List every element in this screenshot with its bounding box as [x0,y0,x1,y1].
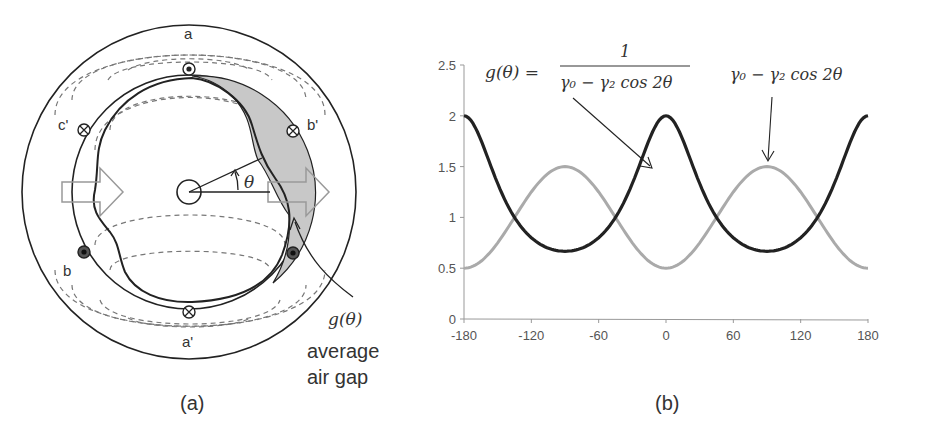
conductor-c-dot [287,247,299,259]
perm-annotation-arrow [768,97,772,160]
conductor-b-prime-cross [287,125,299,137]
y-tick-labels: 00.511.522.5 [438,58,456,327]
label-c-prime: c' [58,116,69,133]
y-tick-label: 2 [449,109,456,124]
y-tick-label: 0.5 [438,261,456,276]
caption-b: (b) [655,392,679,414]
label-a-prime: a' [182,333,193,350]
permeance-series-line [464,167,868,269]
gap-series-line [464,116,868,252]
theta-label: θ [244,172,254,192]
caption-a: (a) [180,392,204,414]
conductor-c-prime-cross [78,124,90,136]
gap-text-line2: air gap [307,366,368,388]
g-annotation-arrow [573,98,650,166]
axis-ticks [460,65,868,323]
y-tick-label: 2.5 [438,58,456,73]
y-tick-label: 1.5 [438,160,456,175]
conductor-b-dot [78,246,90,258]
perm-formula: γ₀ − γ₂ cos 2θ [730,65,843,84]
panel-b-chart: 00.511.522.5 -180-120-60060120180 g(θ) =… [438,42,879,414]
label-a: a [184,25,193,42]
g-formula-numerator: 1 [620,42,630,61]
label-b-prime: b' [307,116,318,133]
g-formula-denominator: γ₀ − γ₂ cos 2θ [560,73,673,92]
panel-a-diagram: θ a a' c' b' b [22,25,379,414]
x-tick-label: 180 [857,328,879,343]
x-tick-labels: -180-120-60060120180 [451,328,879,343]
y-tick-label: 0 [449,312,456,327]
conductor-a-dot [183,63,195,75]
conductor-a-prime-cross [183,306,195,318]
x-tick-label: 60 [726,328,740,343]
y-tick-label: 1 [449,210,456,225]
g-formula-lhs: g(θ) = [485,62,539,82]
gap-text-line1: average [307,340,379,362]
x-tick-label: -120 [518,328,544,343]
flux-arrow-left [62,168,123,216]
gap-function-label: g(θ) [328,309,362,329]
x-tick-label: 120 [790,328,812,343]
figure-canvas: θ a a' c' b' b [0,0,944,442]
label-b: b [63,262,71,279]
x-tick-label: -180 [451,328,477,343]
x-tick-label: -60 [589,328,608,343]
x-tick-label: 0 [662,328,669,343]
